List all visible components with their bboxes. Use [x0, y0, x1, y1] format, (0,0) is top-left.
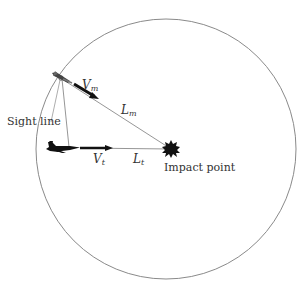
vt-label: Vt — [93, 152, 106, 167]
intercept-diagram: Sight line Impact point Vm Lm Vt Lt — [0, 0, 308, 295]
impact-point-label: Impact point — [164, 161, 236, 174]
sight-line-label: Sight line — [7, 115, 61, 128]
lm-label: Lm — [120, 103, 137, 118]
lt-label: Lt — [132, 152, 145, 167]
sight-line — [62, 79, 69, 147]
fighter-jet-icon — [46, 141, 80, 153]
vt-velocity-arrow — [80, 145, 113, 151]
missile-path-line — [62, 79, 171, 149]
vm-label: Vm — [82, 78, 99, 93]
explosion-burst-icon — [162, 140, 180, 158]
